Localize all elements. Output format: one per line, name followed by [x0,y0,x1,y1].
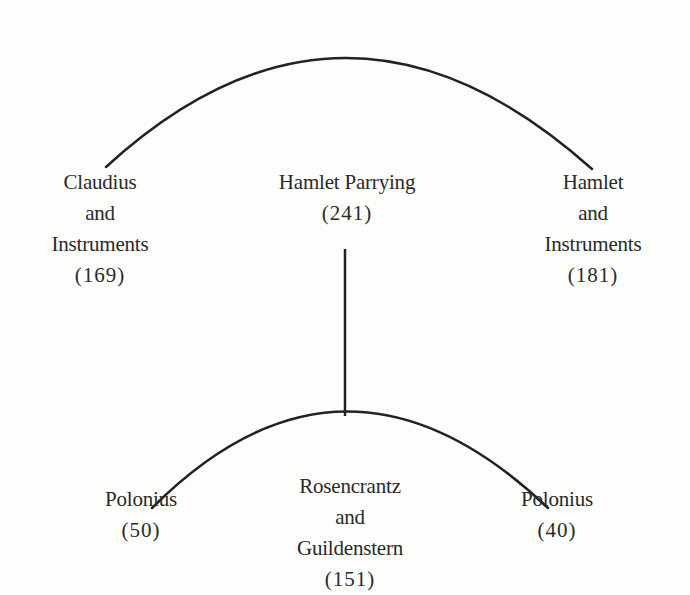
node-label-line: Instruments [52,229,149,260]
node-label-line: Polonius [521,484,593,515]
node-rosencrantz-and-guildenstern: Rosencrantz and Guildenstern (151) [297,471,403,595]
node-label-line: Guildenstern [297,533,403,564]
node-label-line: Hamlet [545,167,642,198]
node-count: (169) [52,260,149,291]
node-label-line: Instruments [545,229,642,260]
node-count: (50) [105,515,177,546]
node-label-line: Rosencrantz [297,471,403,502]
node-hamlet-and-instruments: Hamlet and Instruments (181) [545,167,642,291]
node-label-line: and [297,502,403,533]
node-label-line: Claudius [52,167,149,198]
node-label-line: and [545,198,642,229]
node-count: (151) [297,564,403,595]
node-label-line: Hamlet Parrying [279,167,415,198]
node-count: (241) [279,198,415,229]
node-hamlet-parrying: Hamlet Parrying (241) [279,167,415,229]
node-label-line: Polonius [105,484,177,515]
node-count: (40) [521,515,593,546]
node-polonius-right: Polonius (40) [521,484,593,546]
node-label-line: and [52,198,149,229]
top-arc [106,58,592,169]
node-polonius-left: Polonius (50) [105,484,177,546]
node-count: (181) [545,260,642,291]
node-claudius-and-instruments: Claudius and Instruments (169) [52,167,149,291]
